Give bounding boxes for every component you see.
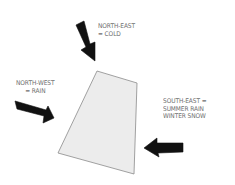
arrow-left-icon	[144, 138, 183, 157]
site-plot	[58, 71, 137, 174]
north-west-label-line2: = RAIN	[16, 88, 55, 96]
south-east-label-line3: WINTER SNOW	[163, 113, 207, 121]
north-east-label: NORTH-EAST= COLD	[98, 23, 135, 38]
north-west-label: NORTH-WEST= RAIN	[16, 80, 55, 95]
arrow-right-icon	[15, 101, 54, 123]
arrow-down-right-icon	[76, 21, 95, 61]
north-east-label-line2: = COLD	[98, 31, 135, 39]
south-east-label: SOUTH-EAST =SUMMER RAINWINTER SNOW	[163, 98, 207, 121]
